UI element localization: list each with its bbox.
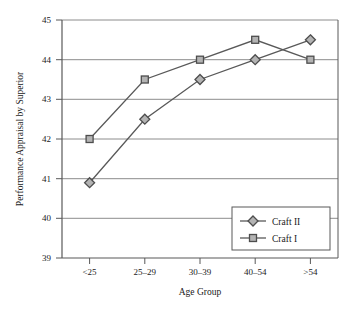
x-tick-label-4: >54	[303, 267, 318, 277]
data-point-craft-i-0	[86, 136, 93, 143]
x-tick-marks	[90, 258, 311, 264]
x-tick-label-2: 30–39	[189, 267, 212, 277]
x-tick-label-3: 40–54	[244, 267, 267, 277]
line-chart: 39 40 41 42 43 44 45 <25 25–29 30–39 40–…	[0, 0, 355, 310]
x-tick-label-1: 25–29	[134, 267, 157, 277]
y-tick-label-41: 41	[42, 174, 51, 184]
chart-figure: 39 40 41 42 43 44 45 <25 25–29 30–39 40–…	[0, 0, 355, 310]
data-point-craft-i-3	[252, 36, 259, 43]
data-point-craft-i-4	[307, 56, 314, 63]
x-axis-title: Age Group	[179, 287, 222, 297]
y-tick-label-42: 42	[42, 134, 51, 144]
y-axis-title: Performance Appraisal by Superior	[15, 71, 25, 206]
y-tick-label-45: 45	[42, 15, 52, 25]
legend-label-craft-ii: Craft II	[272, 217, 300, 227]
y-tick-label-40: 40	[42, 213, 52, 223]
legend-box	[232, 207, 330, 250]
legend-label-craft-i: Craft I	[272, 234, 297, 244]
y-tick-label-43: 43	[42, 94, 52, 104]
y-tick-label-39: 39	[42, 253, 52, 263]
y-tick-marks	[56, 20, 62, 258]
x-tick-label-0: <25	[83, 267, 98, 277]
data-point-craft-i-1	[141, 76, 148, 83]
legend-marker-square-icon	[250, 235, 257, 242]
data-point-craft-i-2	[197, 56, 204, 63]
y-tick-label-44: 44	[42, 55, 52, 65]
legend: Craft II Craft I	[232, 207, 330, 250]
